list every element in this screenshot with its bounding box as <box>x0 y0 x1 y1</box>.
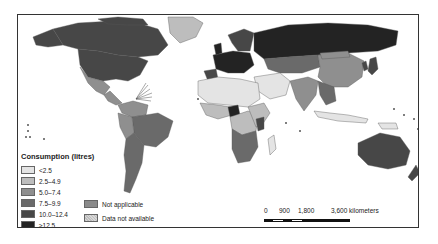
legend-label: 7.5–9.9 <box>39 200 61 207</box>
legend-swatch <box>21 199 35 207</box>
region-central-america <box>104 91 122 105</box>
region-west-africa <box>200 103 232 119</box>
scale-bar: 0 900 1,800 3,600 kilometers <box>264 207 384 222</box>
legend-label: Data not available <box>102 215 154 222</box>
legend-label: ≥12.5 <box>39 222 55 229</box>
legend-label: 5.0–7.4 <box>39 189 61 196</box>
region-madagascar <box>268 135 276 155</box>
legend-label: Not applicable <box>102 201 143 208</box>
region-western-europe <box>213 51 254 73</box>
scale-labels: 0 900 1,800 3,600 kilometers <box>264 207 384 216</box>
region-japan <box>368 57 378 75</box>
region-canada <box>53 21 168 57</box>
legend-swatch <box>21 177 35 185</box>
region-north-africa <box>198 77 260 107</box>
legend-swatch <box>84 200 98 208</box>
legend-swatch <box>21 166 35 174</box>
scale-tick: 0 <box>264 207 268 214</box>
region-new-zealand <box>408 165 419 181</box>
legend-title: Consumption (litres) <box>21 152 94 161</box>
scale-tick: 3,600 kilometers <box>331 207 379 214</box>
legend-item: 5.0–7.4 <box>21 187 94 197</box>
legend-label: 2.5–4.9 <box>39 178 61 185</box>
region-australia <box>358 133 410 169</box>
region-scandinavia <box>228 29 254 51</box>
region-indonesia <box>314 111 368 123</box>
legend-item-not-applicable: Not applicable <box>84 199 154 209</box>
region-caribbean <box>136 83 152 101</box>
region-southern-africa <box>232 129 258 163</box>
legend-swatch <box>84 214 98 222</box>
legend-extra: Not applicable Data not available <box>84 199 154 227</box>
region-png <box>378 123 398 129</box>
scale-tick: 1,800 <box>298 207 314 214</box>
region-india <box>290 77 318 111</box>
region-uk <box>214 43 222 55</box>
legend-swatch <box>21 210 35 218</box>
region-argentina-chile <box>124 133 144 193</box>
scale-bar-graphic <box>264 219 350 222</box>
legend-item-data-not-available: Data not available <box>84 213 154 223</box>
region-uganda-area <box>256 117 264 131</box>
legend-item: 2.5–4.9 <box>21 176 94 186</box>
legend-label: <2.5 <box>39 167 52 174</box>
legend-swatch <box>21 221 35 228</box>
legend-label: 10.0–12.4 <box>39 211 68 218</box>
region-greenland <box>168 17 203 43</box>
map-frame: Consumption (litres) <2.5 2.5–4.9 5.0–7.… <box>17 14 419 228</box>
scale-tick: 900 <box>279 207 290 214</box>
legend-item: <2.5 <box>21 165 94 175</box>
legend-swatch <box>21 188 35 196</box>
